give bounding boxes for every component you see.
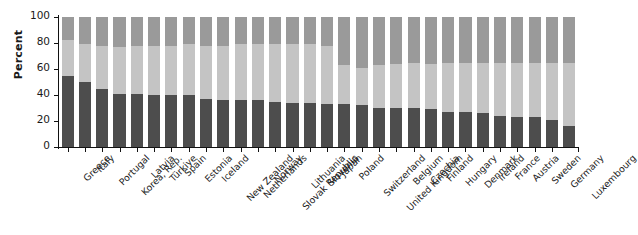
x-tick-mark [275,147,276,152]
bar-segment-segment-top [477,17,489,63]
stacked-bar [269,17,281,147]
bar-column [145,17,162,147]
x-tick-mark [414,147,415,152]
bar-segment-segment-top [217,17,229,46]
stacked-bar [252,17,264,147]
x-tick [267,147,284,152]
bar-segment-segment-bottom [390,108,402,147]
bar-segment-segment-top [321,17,333,46]
bar-segment-segment-bottom [148,95,160,147]
bar-column [561,17,578,147]
bar-segment-segment-middle [563,63,575,127]
stacked-bar [235,17,247,147]
bar-column [59,17,76,147]
stacked-bar [477,17,489,147]
stacked-bar [356,17,368,147]
x-tick-mark [223,147,224,152]
bar-segment-segment-middle [200,46,212,99]
bar-segment-segment-middle [494,63,506,116]
x-tick [76,147,93,152]
stacked-bar [546,17,558,147]
bar-segment-segment-middle [459,63,471,112]
x-tick-mark [68,147,69,152]
bar-segment-segment-middle [148,46,160,95]
x-tick-mark [120,147,121,152]
x-tick-mark [137,147,138,152]
x-tick-mark [578,147,579,152]
bar-column [457,17,474,147]
bar-segment-segment-middle [62,40,74,75]
x-tick [111,147,128,152]
bar-column [163,17,180,147]
bar-segment-segment-bottom [408,108,420,147]
bar-column [94,17,111,147]
x-tick [388,147,405,152]
bar-segment-segment-middle [529,63,541,118]
x-tick-mark [396,147,397,152]
bar-segment-segment-top [529,17,541,63]
bar-segment-segment-middle [183,44,195,95]
stacked-bar [563,17,575,147]
bar-segment-segment-middle [338,65,350,104]
bar-segment-segment-bottom [356,105,368,147]
bar-segment-segment-middle [390,64,402,108]
bar-segment-segment-middle [286,44,298,103]
bar-segment-segment-middle [131,46,143,94]
stacked-bar [165,17,177,147]
bar-segment-segment-bottom [425,109,437,147]
bar-column [215,17,232,147]
bar-segment-segment-middle [356,68,368,106]
x-tick [440,147,457,152]
bar-column [336,17,353,147]
x-tick-mark [535,147,536,152]
y-tick-label: 100 [30,10,50,21]
bar-segment-segment-bottom [200,99,212,147]
x-tick [163,147,180,152]
bar-segment-segment-middle [252,44,264,100]
bar-column [370,17,387,147]
bar-segment-segment-top [96,17,108,46]
bar-segment-segment-top [511,17,523,63]
bar-column [509,17,526,147]
bar-segment-segment-middle [546,63,558,120]
bar-segment-segment-top [390,17,402,64]
bar-segment-segment-top [62,17,74,40]
x-tick [301,147,318,152]
stacked-bar [79,17,91,147]
bar-segment-segment-bottom [217,100,229,147]
x-tick-mark [85,147,86,152]
bar-segment-segment-top [304,17,316,44]
x-tick-mark [362,147,363,152]
bar-segment-segment-bottom [321,104,333,147]
bar-segment-segment-top [373,17,385,65]
bar-segment-segment-top [494,17,506,63]
stacked-bar [113,17,125,147]
bar-column [76,17,93,147]
bar-column [491,17,508,147]
x-tick-mark [241,147,242,152]
y-tick-label: 20 [37,114,50,125]
bar-segment-segment-top [235,17,247,44]
bar-segment-segment-bottom [131,94,143,147]
bar-segment-segment-middle [165,46,177,95]
bar-segment-segment-top [200,17,212,46]
bar-segment-segment-bottom [304,103,316,147]
stacked-bar [96,17,108,147]
bar-segment-segment-bottom [459,112,471,147]
stacked-bar [442,17,454,147]
bar-segment-segment-bottom [529,117,541,147]
bar-segment-segment-top [148,17,160,46]
x-tick-mark [431,147,432,152]
stacked-bar [148,17,160,147]
y-axis-ticks: 020406080100 [0,0,59,235]
bar-segment-segment-top [425,17,437,64]
bar-segment-segment-middle [235,44,247,100]
bar-segment-segment-top [356,17,368,68]
y-tick-label: 80 [37,36,50,47]
stacked-bar [321,17,333,147]
bar-segment-segment-top [338,17,350,65]
stacked-bar [390,17,402,147]
stacked-bar [131,17,143,147]
bar-segment-segment-middle [477,63,489,114]
bar-segment-segment-top [459,17,471,63]
